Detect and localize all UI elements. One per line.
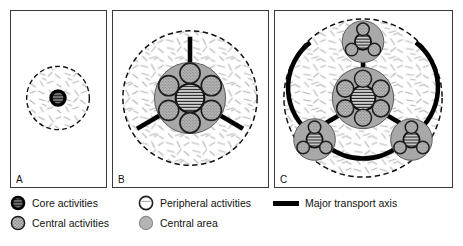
central-activity xyxy=(357,23,369,35)
central-activity xyxy=(297,141,309,153)
central-activity xyxy=(417,141,429,153)
legend-label: Major transport axis xyxy=(305,197,397,209)
central-cluster-c xyxy=(332,67,393,128)
central-activity xyxy=(180,113,200,133)
legend-item-central-activities: Central activities xyxy=(10,214,109,232)
legend-item-major-transport-axis: Major transport axis xyxy=(273,194,397,212)
central-activity xyxy=(159,100,179,120)
central-activity xyxy=(368,43,380,55)
core-activity-a xyxy=(51,91,65,105)
core-activity-b xyxy=(176,84,205,113)
satellite-cluster-bottom-left-c xyxy=(294,119,336,161)
central-activity xyxy=(372,80,389,97)
satellite-cluster-bottom-right-c xyxy=(391,119,433,161)
central-activities-icon xyxy=(10,215,26,231)
legend-label: Central activities xyxy=(32,217,109,229)
legend-label: Core activities xyxy=(32,197,98,209)
panel-b-graphic xyxy=(113,11,268,187)
panel-b: B xyxy=(112,10,269,188)
central-activity xyxy=(337,100,354,117)
panel-label-a: A xyxy=(16,174,23,185)
central-area-icon xyxy=(138,215,154,231)
central-activity xyxy=(201,76,221,96)
panel-c-graphic xyxy=(275,11,452,187)
core-activities-icon xyxy=(10,195,26,211)
central-activity xyxy=(394,141,406,153)
panel-label-b: B xyxy=(118,174,125,185)
legend-label: Peripheral activities xyxy=(160,197,251,209)
satellite-cluster-top-c xyxy=(342,21,384,63)
central-activity xyxy=(345,43,357,55)
figure-root: A xyxy=(0,0,463,246)
legend-item-central-area: Central area xyxy=(138,214,218,232)
legend-item-peripheral-activities: Peripheral activities xyxy=(138,194,251,212)
legend-label: Central area xyxy=(160,217,218,229)
panel-c: C xyxy=(274,10,453,188)
panel-label-c: C xyxy=(280,174,287,185)
central-activity xyxy=(355,70,372,87)
major-transport-axis-icon xyxy=(273,201,299,206)
central-activity xyxy=(372,100,389,117)
panel-a: A xyxy=(10,10,107,188)
central-activity xyxy=(201,100,221,120)
central-activity xyxy=(355,109,372,126)
panel-a-graphic xyxy=(11,11,106,187)
central-activity xyxy=(308,121,320,133)
central-activity xyxy=(405,121,417,133)
legend-item-core-activities: Core activities xyxy=(10,194,98,212)
peripheral-activities-icon xyxy=(138,195,154,211)
legend: Core activities Central activities xyxy=(10,194,453,242)
central-activity xyxy=(337,80,354,97)
central-activity xyxy=(159,76,179,96)
central-activity xyxy=(180,63,200,83)
central-activity xyxy=(320,141,332,153)
